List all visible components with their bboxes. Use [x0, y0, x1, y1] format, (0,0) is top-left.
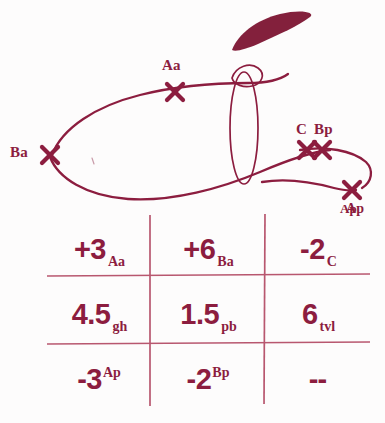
cell-superscript-ap: Ap: [346, 202, 364, 216]
cell-subscript: tvl: [320, 319, 336, 334]
cell-value: --: [309, 363, 326, 395]
marker-label-c: C: [296, 122, 307, 137]
cell-value: -3: [77, 363, 102, 395]
table-cell-gh[interactable]: 4.5gh: [47, 276, 150, 343]
cell-subscript: Ba: [217, 254, 233, 269]
cell-value: -2: [300, 233, 325, 265]
cell-subscript: pb: [221, 319, 237, 334]
cell-superscript: Ap: [103, 365, 121, 380]
cell-value: 1.5: [180, 298, 219, 330]
table-grid: +3Aa +6Ba Ap -2C 4.5gh: [47, 214, 370, 410]
cell-value: 6: [302, 298, 318, 330]
table-cell-ap[interactable]: -3Ap: [47, 343, 150, 410]
stray-ink-tick: [92, 158, 94, 164]
marker-label-ba: Ba: [10, 145, 28, 160]
table-cell-bp[interactable]: -2Bp: [150, 343, 265, 410]
table-cell-dash[interactable]: --: [265, 343, 370, 410]
table-cell-ba[interactable]: +6Ba: [150, 214, 265, 276]
cell-superscript: Bp: [212, 365, 229, 380]
table-cell-aa[interactable]: +3Aa: [47, 214, 150, 276]
cell-subscript: C: [327, 254, 337, 269]
marker-label-aa: Aa: [162, 58, 181, 73]
pop-q-table: +3Aa +6Ba Ap -2C 4.5gh: [0, 214, 385, 423]
cell-value: +3: [74, 233, 106, 265]
cell-subscript: Aa: [108, 254, 125, 269]
table-cell-pb[interactable]: 1.5pb: [150, 276, 265, 343]
cell-value: 4.5: [72, 298, 111, 330]
right-lower-arc: [262, 180, 356, 190]
cell-subscript: gh: [113, 319, 128, 334]
table-cell-tvl[interactable]: 6tvl: [265, 276, 370, 343]
diagram-area: Aa Ba C Bp Ap: [0, 0, 385, 222]
marker-x-aa: [167, 84, 183, 100]
marker-x-ba: [42, 147, 58, 163]
marker-label-bp: Bp: [314, 122, 333, 137]
cell-value: +6: [183, 233, 215, 265]
cell-value: -2: [187, 363, 212, 395]
page-canvas: Aa Ba C Bp Ap +3Aa +6Ba: [0, 0, 385, 423]
table-cell-c[interactable]: Ap -2C: [265, 214, 370, 276]
solid-wedge-shape: [232, 11, 311, 50]
vertical-ellipse-outline: [230, 72, 258, 184]
